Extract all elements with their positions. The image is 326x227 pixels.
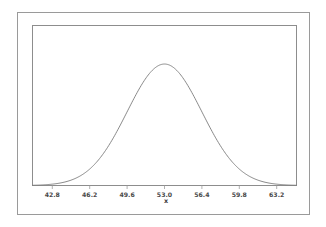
outer-frame: [18, 13, 310, 215]
x-tick-label: 63.2: [269, 191, 284, 198]
x-tick-label: 56.4: [194, 191, 210, 198]
x-tick-label: 59.8: [232, 191, 247, 198]
distribution-curve: [33, 64, 297, 185]
x-axis-title: x: [164, 197, 169, 205]
chart-svg: 42.846.249.653.056.459.863.2 x: [0, 0, 326, 227]
x-tick-label: 46.2: [82, 191, 97, 198]
x-tick-label: 42.8: [45, 191, 60, 198]
figure-container: 42.846.249.653.056.459.863.2 x: [0, 0, 326, 227]
x-tick-label: 49.6: [119, 191, 134, 198]
x-axis-ticks: [52, 186, 276, 190]
plot-box: [33, 26, 297, 186]
